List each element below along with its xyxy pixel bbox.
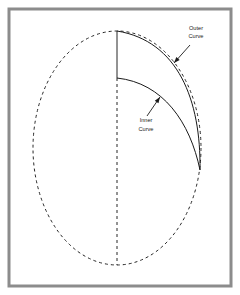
curve-diagram-svg: Outer Curve Inner Curve bbox=[0, 0, 240, 295]
diagram-canvas: Outer Curve Inner Curve bbox=[0, 0, 240, 295]
outer-curve-label-line1: Outer bbox=[189, 25, 203, 31]
inner-curve-label-line2: Curve bbox=[139, 126, 154, 132]
outer-curve-label-line2: Curve bbox=[189, 33, 204, 39]
outer-frame bbox=[9, 9, 231, 286]
inner-curve-label-line1: Inner bbox=[140, 117, 153, 123]
